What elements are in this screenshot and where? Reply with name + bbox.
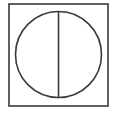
- diagram-canvas: [0, 0, 114, 126]
